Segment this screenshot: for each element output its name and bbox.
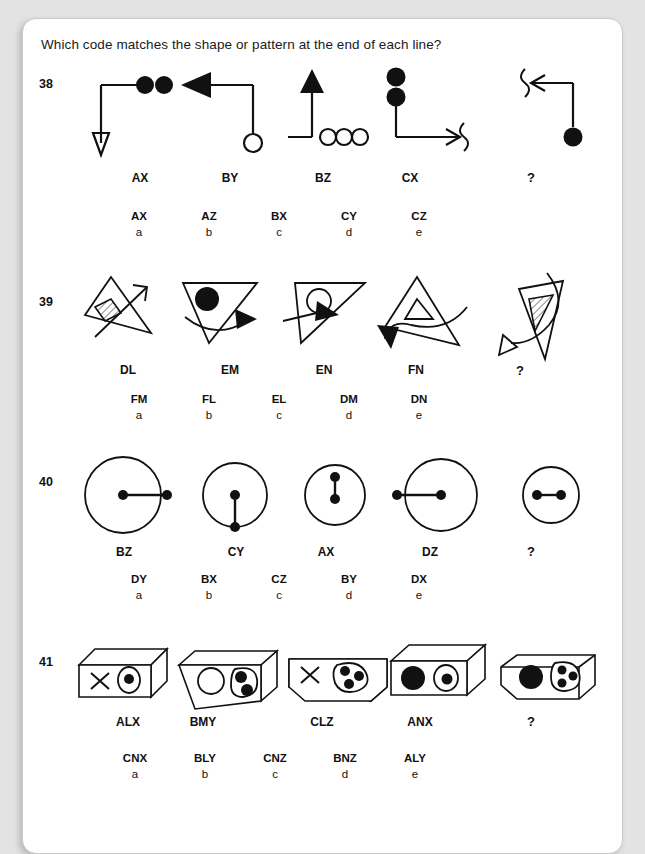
option-code: BX: [249, 209, 309, 224]
option-code: CZ: [389, 209, 449, 224]
option-code: DN: [389, 392, 449, 407]
figure-code-41-1: ALX: [93, 715, 163, 729]
figure-38-2: [171, 67, 281, 159]
question-number: 38: [39, 77, 53, 91]
figure-code-40-1: BZ: [89, 545, 159, 559]
figure-38-5: [493, 67, 603, 159]
option-38-c[interactable]: BX c: [249, 209, 309, 240]
figure-41-1: [71, 643, 181, 713]
figure-code-39-4: FN: [381, 363, 451, 377]
question-number: 40: [39, 475, 53, 489]
option-40-b[interactable]: BX b: [179, 572, 239, 603]
question-40: 40: [23, 447, 623, 557]
option-41-e[interactable]: ALY e: [385, 751, 445, 782]
option-letter: c: [249, 407, 309, 423]
figure-41-5: [495, 649, 615, 719]
figure-39-3: [281, 271, 381, 363]
question-number: 39: [39, 295, 53, 309]
figure-41-4: [383, 639, 503, 711]
figure-code-41-2: BMY: [168, 715, 238, 729]
option-40-e[interactable]: DX e: [389, 572, 449, 603]
option-code: AX: [109, 209, 169, 224]
figure-40-4: [381, 451, 501, 543]
option-39-e[interactable]: DN e: [389, 392, 449, 423]
question-41: 41: [23, 627, 623, 737]
figure-41-2: [173, 647, 293, 722]
options-40: DY a BX b CZ c BY d DX e: [23, 572, 623, 616]
figure-code-39-1: DL: [93, 363, 163, 377]
figure-39-2: [175, 271, 275, 363]
option-letter: e: [389, 587, 449, 603]
option-code: EL: [249, 392, 309, 407]
option-38-d[interactable]: CY d: [319, 209, 379, 240]
figure-40-1: [73, 451, 183, 543]
option-code: BY: [319, 572, 379, 587]
page-title: Which code matches the shape or pattern …: [41, 37, 441, 52]
worksheet-card: Which code matches the shape or pattern …: [22, 18, 623, 854]
option-code: FM: [109, 392, 169, 407]
option-letter: e: [389, 224, 449, 240]
figure-40-2: [183, 451, 293, 543]
option-letter: a: [109, 407, 169, 423]
figure-code-39-5: ?: [485, 363, 555, 378]
option-40-d[interactable]: BY d: [319, 572, 379, 603]
figure-40-5: [503, 451, 613, 543]
option-41-b[interactable]: BLY b: [175, 751, 235, 782]
option-38-a[interactable]: AX a: [109, 209, 169, 240]
option-letter: b: [179, 587, 239, 603]
figure-38-1: [73, 67, 183, 159]
option-38-e[interactable]: CZ e: [389, 209, 449, 240]
option-code: CNX: [105, 751, 165, 766]
option-letter: a: [109, 587, 169, 603]
option-code: BNZ: [315, 751, 375, 766]
option-39-c[interactable]: EL c: [249, 392, 309, 423]
option-letter: b: [179, 407, 239, 423]
option-code: DY: [109, 572, 169, 587]
option-code: BX: [179, 572, 239, 587]
option-41-c[interactable]: CNZ c: [245, 751, 305, 782]
option-code: AZ: [179, 209, 239, 224]
option-letter: d: [319, 407, 379, 423]
option-40-a[interactable]: DY a: [109, 572, 169, 603]
figure-code-39-2: EM: [195, 363, 265, 377]
options-39: FM a FL b EL c DM d DN e: [23, 392, 623, 436]
option-letter: a: [109, 224, 169, 240]
option-41-a[interactable]: CNX a: [105, 751, 165, 782]
figure-code-38-3: BZ: [288, 171, 358, 185]
question-number: 41: [39, 655, 53, 669]
option-code: CY: [319, 209, 379, 224]
option-letter: d: [319, 224, 379, 240]
figure-39-4: [371, 271, 481, 363]
option-letter: b: [175, 766, 235, 782]
option-code: BLY: [175, 751, 235, 766]
figure-code-39-3: EN: [289, 363, 359, 377]
question-38: 38: [23, 55, 623, 185]
option-letter: e: [389, 407, 449, 423]
figure-code-40-4: DZ: [395, 545, 465, 559]
option-letter: d: [315, 766, 375, 782]
option-41-d[interactable]: BNZ d: [315, 751, 375, 782]
figure-code-38-1: AX: [105, 171, 175, 185]
option-39-a[interactable]: FM a: [109, 392, 169, 423]
figure-code-38-4: CX: [375, 171, 445, 185]
options-38: AX a AZ b BX c CY d CZ e: [23, 209, 623, 253]
figure-code-38-5: ?: [496, 170, 566, 185]
options-41: CNX a BLY b CNZ c BNZ d ALY e: [23, 751, 623, 795]
option-code: ALY: [385, 751, 445, 766]
figure-code-41-3: CLZ: [287, 715, 357, 729]
figure-code-40-5: ?: [496, 544, 566, 559]
option-letter: a: [105, 766, 165, 782]
figure-39-1: [73, 271, 173, 363]
option-40-c[interactable]: CZ c: [249, 572, 309, 603]
option-39-b[interactable]: FL b: [179, 392, 239, 423]
option-39-d[interactable]: DM d: [319, 392, 379, 423]
option-code: CZ: [249, 572, 309, 587]
option-letter: c: [249, 587, 309, 603]
figure-code-40-2: CY: [201, 545, 271, 559]
option-code: FL: [179, 392, 239, 407]
option-code: DX: [389, 572, 449, 587]
option-letter: e: [385, 766, 445, 782]
figure-code-38-2: BY: [195, 171, 265, 185]
question-39: 39: [23, 267, 623, 377]
option-38-b[interactable]: AZ b: [179, 209, 239, 240]
